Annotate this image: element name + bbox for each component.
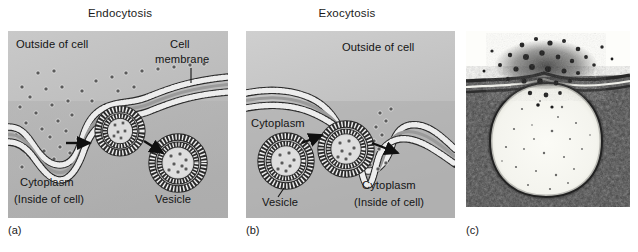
panel-b-vesicle-label: Vesicle [262, 196, 298, 208]
panel-a-title: Endocytosis [60, 7, 180, 19]
panel-b-caption: (b) [246, 224, 259, 236]
micrograph-image [466, 31, 630, 207]
docking-vesicle [321, 124, 371, 174]
panel-c-micrograph [466, 31, 630, 218]
panel-b-cytoplasm-label: Cytoplasm [251, 117, 305, 129]
panel-a-endocytosis: Outside of cell Cell membrane Cytoplasm … [8, 31, 228, 218]
panel-b-cytoplasm-lower-line1: Cytoplasm [362, 179, 416, 191]
panel-a-cytoplasm-label-line1: Cytoplasm [20, 176, 74, 188]
panel-a-caption: (a) [8, 224, 21, 236]
panel-a-membrane-label-line2: membrane [155, 53, 209, 65]
free-vesicle [152, 137, 204, 189]
panel-b-cytoplasm-lower-line2: (Inside of cell) [354, 196, 424, 208]
panel-a-membrane-label-line1: Cell [170, 38, 190, 50]
budding-vesicle [98, 109, 142, 153]
panel-b-title: Exocytosis [287, 7, 407, 19]
panel-b-outside-label: Outside of cell [342, 41, 414, 53]
endocytosis-exocytosis-figure: Endocytosis [0, 0, 638, 252]
panel-a-outside-label: Outside of cell [16, 38, 88, 50]
panel-a-vesicle-label: Vesicle [155, 193, 191, 205]
panel-b-exocytosis: Outside of cell Cytoplasm Vesicle Cytopl… [246, 31, 455, 218]
panel-c-caption: (c) [466, 224, 479, 236]
panel-a-cytoplasm-label-line2: (Inside of cell) [14, 193, 84, 205]
